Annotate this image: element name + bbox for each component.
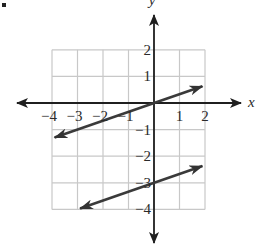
x-tick-label: 1	[176, 108, 184, 124]
y-tick-label: −2	[135, 148, 151, 164]
y-tick-label: −1	[135, 122, 151, 138]
x-tick-label: −3	[67, 108, 83, 124]
x-axis-label: x	[247, 94, 255, 110]
y-tick-label: −4	[135, 201, 151, 217]
x-tick-label: 2	[201, 108, 209, 124]
y-tick-label: 1	[144, 68, 152, 84]
x-tick-label: −1	[118, 108, 134, 124]
tick-labels: −4−3−2−11221−1−2−3−4xy	[41, 0, 255, 217]
y-tick-label: 2	[144, 42, 152, 58]
x-tick-label: −2	[92, 108, 108, 124]
y-axis-label: y	[147, 0, 156, 8]
x-tick-label: −4	[41, 108, 57, 124]
y-tick-label: −3	[135, 175, 151, 191]
coordinate-plane: −4−3−2−11221−1−2−3−4xy	[0, 0, 266, 244]
